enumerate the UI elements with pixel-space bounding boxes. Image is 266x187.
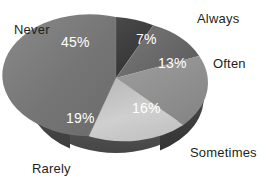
pie-label-often: Often bbox=[213, 56, 246, 71]
pie-value-rarely: 19% bbox=[66, 110, 95, 126]
pie-label-sometimes: Sometimes bbox=[190, 145, 257, 160]
pie-value-never: 45% bbox=[61, 34, 90, 50]
pie-chart-figure: Always Often Sometimes Rarely Never 7% 1… bbox=[0, 0, 266, 187]
pie-label-never: Never bbox=[14, 22, 50, 37]
pie-value-sometimes: 16% bbox=[132, 100, 161, 116]
pie-value-always: 7% bbox=[136, 31, 157, 47]
pie-value-often: 13% bbox=[158, 55, 187, 71]
pie-label-rarely: Rarely bbox=[32, 161, 71, 176]
pie-label-always: Always bbox=[197, 11, 239, 26]
